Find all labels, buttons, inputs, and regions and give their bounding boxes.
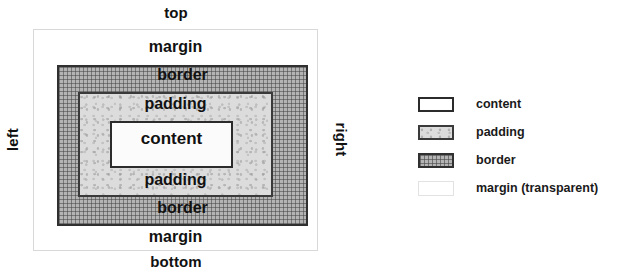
region-label-border-top: border	[57, 66, 308, 84]
edge-label-bottom: bottom	[0, 253, 352, 270]
border-swatch-icon	[418, 153, 454, 168]
edge-label-left: left	[4, 114, 21, 166]
legend-item-margin: margin (transparent)	[418, 174, 618, 202]
content-swatch-icon	[418, 97, 454, 112]
margin-swatch-icon	[418, 181, 454, 196]
padding-swatch-icon	[418, 125, 454, 140]
region-label-margin-top: margin	[33, 38, 318, 56]
box-model-diagram: top bottom left right margin border padd…	[0, 0, 624, 276]
edge-label-right: right	[333, 114, 350, 166]
legend-label-margin: margin (transparent)	[476, 181, 598, 195]
region-label-margin-bottom: margin	[33, 228, 318, 246]
edge-label-top: top	[0, 4, 352, 21]
legend: content padding border margin (transpare…	[418, 90, 618, 202]
region-label-content: content	[110, 129, 233, 149]
legend-label-padding: padding	[476, 125, 525, 139]
legend-label-border: border	[476, 153, 516, 167]
region-label-padding-top: padding	[78, 95, 273, 113]
legend-item-border: border	[418, 146, 618, 174]
region-label-padding-bottom: padding	[78, 171, 273, 189]
legend-label-content: content	[476, 97, 521, 111]
region-label-border-bottom: border	[57, 199, 308, 217]
legend-item-content: content	[418, 90, 618, 118]
legend-item-padding: padding	[418, 118, 618, 146]
